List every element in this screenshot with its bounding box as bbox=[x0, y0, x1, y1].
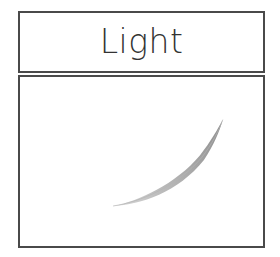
light-card: Light bbox=[18, 11, 265, 248]
brush-stroke-body bbox=[113, 120, 222, 206]
brush-stroke-illustration bbox=[20, 77, 263, 246]
brush-stroke-spine bbox=[113, 120, 222, 206]
card-header: Light bbox=[18, 11, 265, 73]
card-content-area bbox=[18, 75, 265, 248]
page-title: Light bbox=[100, 25, 184, 58]
screenshot-canvas: Light bbox=[0, 0, 280, 257]
